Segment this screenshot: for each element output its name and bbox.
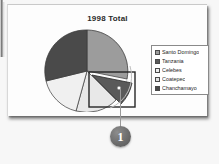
legend-swatch-icon-coatepec xyxy=(155,77,160,82)
legend-label-chanchamayo: Chanchamayo xyxy=(162,85,197,92)
legend-swatch-icon-celebes xyxy=(155,68,160,73)
legend-item-santo-domingo[interactable]: Santo Domingo xyxy=(154,48,206,56)
pie-chart-svg[interactable] xyxy=(34,26,144,112)
legend-label-celebes: Celebes xyxy=(162,67,182,74)
legend-label-santo-domingo: Santo Domingo xyxy=(162,49,199,56)
chart-title: 1998 Total xyxy=(8,14,207,23)
callout-badge-1[interactable]: 1 xyxy=(110,126,131,147)
legend-item-celebes[interactable]: Celebes xyxy=(154,66,206,74)
scan-left-edge-highlight xyxy=(3,2,5,57)
legend-item-coatepec[interactable]: Coatepec xyxy=(154,75,206,83)
legend-swatch-icon-santo-domingo xyxy=(155,50,160,55)
pie-chart[interactable] xyxy=(34,26,144,112)
legend-label-tanzania: Tanzania xyxy=(162,58,184,65)
callout-badge-number: 1 xyxy=(118,131,124,143)
callout-leader-line xyxy=(120,88,121,128)
legend-item-chanchamayo[interactable]: Chanchamayo xyxy=(154,84,206,92)
chart-legend[interactable]: Santo Domingo Tanzania Celebes Coatepec … xyxy=(151,45,209,95)
legend-item-tanzania[interactable]: Tanzania xyxy=(154,57,206,65)
legend-swatch-icon-chanchamayo xyxy=(155,86,160,91)
scanned-page-background: 1998 Total xyxy=(0,0,219,164)
chart-panel[interactable]: 1998 Total xyxy=(7,4,207,116)
legend-swatch-icon-tanzania xyxy=(155,59,160,64)
legend-label-coatepec: Coatepec xyxy=(162,76,185,83)
